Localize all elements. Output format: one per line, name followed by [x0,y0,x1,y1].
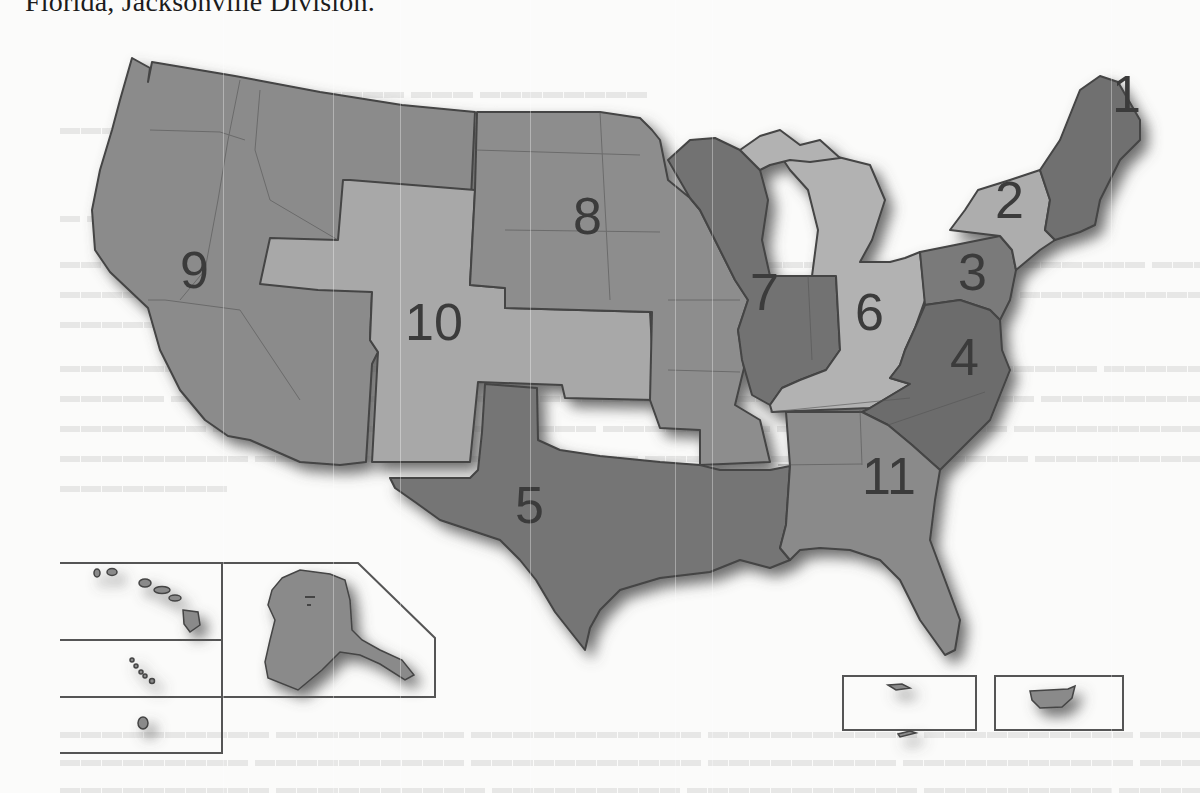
scan-streak [223,0,224,793]
scan-streak [400,0,401,793]
circuit-map: 1 2 3 4 5 6 7 8 9 10 11 [0,0,1200,793]
scan-streak [1111,0,1112,793]
scanned-document-page: Florida, Jacksonville Division. ▬▬▬▬▬ ▬▬… [0,0,1200,793]
scan-streak [712,0,713,793]
scan-streak [333,0,334,793]
scan-streak [675,0,676,793]
scan-streak [530,0,531,793]
